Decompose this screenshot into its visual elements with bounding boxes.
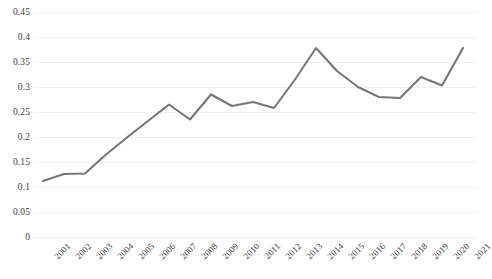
x-tick-label: 2003	[94, 241, 114, 261]
x-tick-label: 2005	[136, 241, 156, 261]
x-tick-label: 2008	[199, 241, 219, 261]
x-tick-label: 2007	[178, 241, 198, 261]
x-tick-label: 2015	[346, 241, 366, 261]
x-tick-label: 2018	[409, 241, 429, 261]
x-tick-label: 2021	[472, 241, 492, 261]
x-tick-label: 2013	[304, 241, 324, 261]
x-tick-label: 2006	[157, 241, 177, 261]
x-tick-label: 2017	[388, 241, 408, 261]
x-tick-label: 2001	[52, 241, 72, 261]
x-tick-label: 2009	[220, 241, 240, 261]
x-tick-label: 2019	[430, 241, 450, 261]
x-tick-label: 2020	[451, 241, 471, 261]
x-tick-label: 2004	[115, 241, 135, 261]
x-tick-label: 2016	[367, 241, 387, 261]
x-tick-label: 2014	[325, 241, 345, 261]
x-tick-label: 2012	[283, 241, 303, 261]
x-tick-label: 2011	[262, 241, 282, 261]
x-tick-label: 2002	[73, 241, 93, 261]
x-tick-label: 2010	[241, 241, 261, 261]
